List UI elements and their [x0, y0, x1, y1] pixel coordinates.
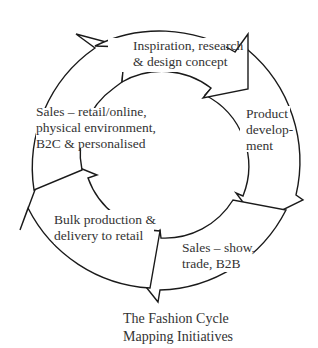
stage-label-line: trade, B2B [182, 256, 255, 272]
stage-label-inspiration: Inspiration, research & design concept [133, 38, 243, 70]
stage-label-line: B2C & personalised [36, 136, 156, 152]
stage-label-line: Sales – retail/online, [36, 104, 156, 120]
caption-line: Mapping Initiatives [44, 328, 318, 346]
stage-label-line: physical environment, [36, 120, 156, 136]
stage-label-sales-b2b: Sales – show, trade, B2B [182, 240, 255, 272]
stage-label-line: delivery to retail [54, 228, 156, 244]
stage-label-bulk: Bulk production & delivery to retail [54, 212, 156, 244]
stage-label-line: develop- [246, 122, 293, 138]
stage-label-line: Inspiration, research [133, 38, 243, 54]
stage-label-product: Product develop- ment [246, 106, 293, 154]
diagram-caption: The Fashion Cycle Mapping Initiatives [0, 310, 318, 346]
stage-label-line: ment [246, 138, 293, 154]
caption-line: The Fashion Cycle [44, 310, 318, 328]
stage-label-line: Product [246, 106, 293, 122]
stage-label-line: Sales – show, [182, 240, 255, 256]
stage-label-line: Bulk production & [54, 212, 156, 228]
stage-label-line: & design concept [133, 54, 243, 70]
stage-label-sales-retail: Sales – retail/online, physical environm… [36, 104, 156, 152]
